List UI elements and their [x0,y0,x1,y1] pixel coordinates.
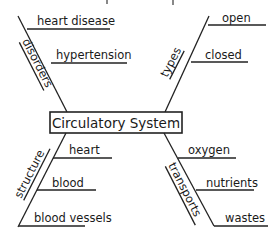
detail-blood: blood [52,176,84,190]
branch-transports: oxygen nutrients wastes transports [164,133,268,226]
detail-heart-disease: heart disease [37,14,115,28]
detail-heart: heart [69,143,100,157]
detail-blood-vessels: blood vessels [34,211,112,225]
branch-structure: heart blood blood vessels structure [11,133,112,227]
detail-wastes: wastes [225,211,265,225]
branch-disorders: heart disease hypertension disorders [18,14,132,112]
category-structure: structure [11,147,47,200]
detail-nutrients: nutrients [206,176,258,190]
center-node: Circulatory System [50,112,182,133]
detail-closed: closed [205,48,242,62]
detail-open: open [222,11,251,25]
detail-hypertension: hypertension [56,48,132,62]
center-label: Circulatory System [52,115,180,131]
detail-oxygen: oxygen [188,143,230,157]
cropped-title-fragments [106,0,174,5]
category-types: types [157,45,184,80]
branch-types: open closed types [157,11,266,112]
spider-map-diagram: heart disease hypertension disorders ope… [0,0,277,242]
category-disorders: disorders [19,36,56,90]
